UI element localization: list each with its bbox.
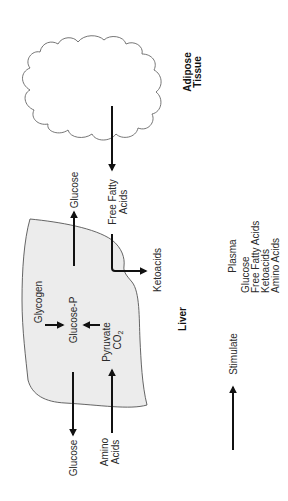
ketoacids-label: Ketoacids: [152, 248, 163, 292]
glucose-out-left-label: Glucose: [68, 439, 79, 476]
ffa-label-line1: Free Fatty: [107, 179, 118, 225]
liver-label: Liver: [177, 307, 188, 331]
ffa-label-line2: Acids: [118, 190, 129, 214]
glucose-out-right-label: Glucose: [69, 171, 80, 208]
amino-label-line2: Acids: [110, 440, 121, 464]
plasma-title: Plasma: [227, 239, 238, 273]
pyruvate-label: Pyruvate: [101, 322, 112, 362]
glycogen-label: Glycogen: [33, 281, 44, 323]
adipose-tissue-cloud: [23, 36, 162, 140]
glucose-p-label: Glucose-P: [68, 296, 79, 343]
stimulate-label: Stimulate: [228, 333, 239, 375]
amino-label-line1: Amino: [99, 437, 110, 466]
plasma-item-amino-acids: Amino Acids: [270, 238, 281, 293]
tissue-label: Tissue: [192, 56, 203, 88]
metabolism-diagram: Adipose Tissue Glucose Free Fatty Acids …: [0, 0, 288, 501]
